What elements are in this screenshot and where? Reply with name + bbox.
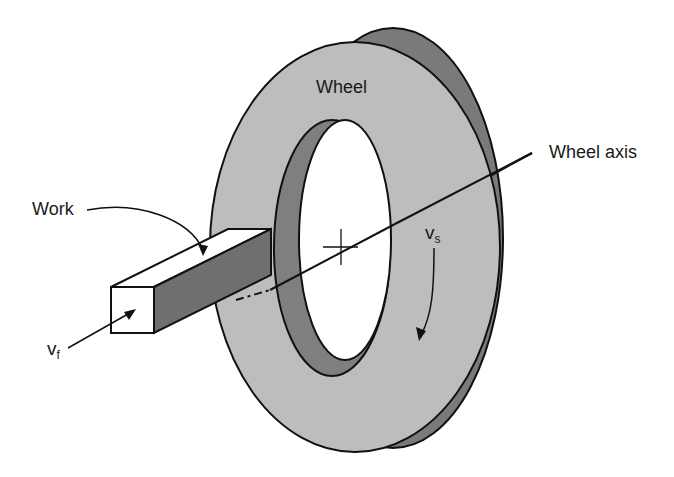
vs-subscript: s [435, 232, 441, 246]
feed-velocity-label: vf [47, 338, 60, 362]
vf-subscript: f [57, 348, 60, 362]
surface-speed-label: vs [425, 222, 441, 246]
wheel-bore [274, 120, 391, 376]
grinding-diagram [0, 0, 674, 477]
vf-base: v [47, 338, 57, 359]
wheel-axis-label: Wheel axis [549, 142, 637, 163]
vs-base: v [425, 222, 435, 243]
work-label: Work [32, 199, 74, 220]
wheel-label: Wheel [316, 77, 367, 98]
